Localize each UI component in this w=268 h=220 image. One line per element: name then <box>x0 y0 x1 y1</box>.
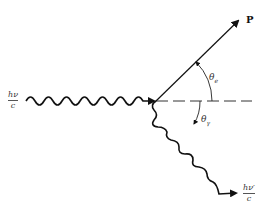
scattered-numerator: hν′ <box>243 184 255 192</box>
theta-e-subscript: e <box>214 77 218 84</box>
theta-gamma-subscript: γ <box>206 119 210 126</box>
electron-momentum-label: P <box>246 14 254 25</box>
theta-gamma-arc <box>194 101 200 124</box>
incident-numerator: hν <box>8 91 18 99</box>
incident-photon-wave <box>26 97 154 105</box>
incident-photon-label: hν c <box>8 91 18 110</box>
incident-denominator: c <box>11 102 15 110</box>
scattered-photon-wave <box>152 101 236 194</box>
scattered-photon-label: hν′ c <box>243 184 255 203</box>
compton-diagram <box>0 0 268 220</box>
theta-e-label: θe <box>209 72 218 84</box>
scattered-denominator: c <box>247 195 251 203</box>
theta-gamma-label: θγ <box>201 114 210 126</box>
electron-momentum-arrow <box>156 21 238 101</box>
